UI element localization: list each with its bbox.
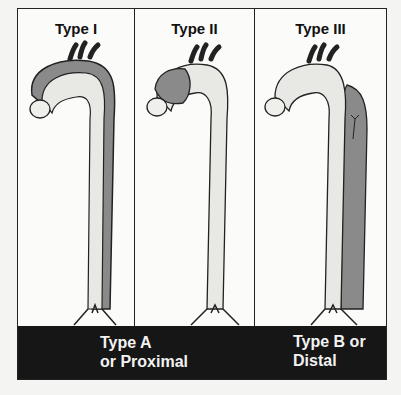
label-type-b: Type B or Distal (293, 332, 366, 370)
aorta-type-3-illustration (255, 9, 386, 326)
panel-type-1: Type I (18, 9, 135, 326)
diagram-frame: Type I Type II Type III (17, 8, 387, 380)
aorta-type-1-illustration (18, 9, 135, 326)
label-type-a: Type A or Proximal (100, 333, 188, 371)
panel-type-2: Type II (135, 9, 255, 326)
panel-type-3: Type III (255, 9, 386, 326)
classification-band: Type A or Proximal Type B or Distal (18, 326, 386, 379)
aorta-type-2-illustration (135, 9, 255, 326)
